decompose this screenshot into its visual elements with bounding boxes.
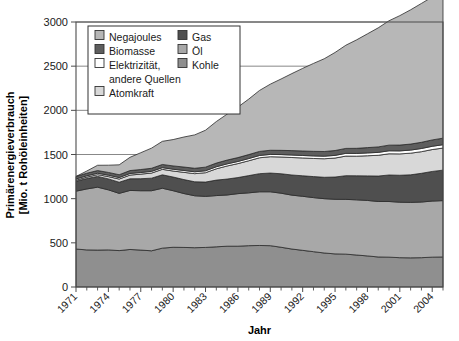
svg-text:1977: 1977: [119, 290, 144, 315]
svg-text:1992: 1992: [281, 290, 306, 315]
svg-text:3000: 3000: [44, 16, 68, 28]
svg-text:Gas: Gas: [192, 31, 211, 43]
svg-text:Atomkraft: Atomkraft: [109, 87, 154, 99]
svg-text:1986: 1986: [216, 290, 241, 315]
legend-swatch-negajoules: [95, 31, 104, 40]
svg-text:2500: 2500: [44, 60, 68, 72]
svg-text:andere Quellen: andere Quellen: [109, 73, 181, 85]
legend: NegajoulesBiomasseElektrizität,andere Qu…: [88, 26, 240, 114]
svg-text:500: 500: [50, 237, 68, 249]
svg-text:2000: 2000: [44, 104, 68, 116]
svg-text:[Mio. t Rohöleinheiten]: [Mio. t Rohöleinheiten]: [17, 95, 29, 214]
energy-consumption-area-chart: 0500100015002000250030001971197419771980…: [0, 0, 459, 341]
svg-text:Primärenergieverbrauch: Primärenergieverbrauch: [4, 91, 16, 218]
svg-text:Biomasse: Biomasse: [109, 45, 155, 57]
svg-text:Negajoules: Negajoules: [109, 31, 162, 43]
x-axis: 1971197419771980198319861989199219951998…: [54, 287, 443, 315]
chart-canvas: 0500100015002000250030001971197419771980…: [0, 0, 459, 341]
legend-swatch-kohle: [178, 59, 187, 68]
svg-text:1974: 1974: [87, 290, 112, 315]
svg-text:Öl: Öl: [192, 45, 203, 57]
legend-swatch-biomasse: [95, 45, 104, 54]
legend-swatch-atomkraft: [95, 87, 104, 96]
svg-text:1000: 1000: [44, 193, 68, 205]
svg-text:1500: 1500: [44, 149, 68, 161]
svg-text:2001: 2001: [378, 290, 403, 315]
svg-text:1983: 1983: [184, 290, 209, 315]
svg-text:1980: 1980: [152, 290, 177, 315]
svg-text:Jahr: Jahr: [248, 324, 272, 336]
legend-swatch-gas: [178, 31, 187, 40]
svg-text:2004: 2004: [411, 290, 436, 315]
svg-text:1998: 1998: [346, 290, 371, 315]
svg-text:1989: 1989: [249, 290, 274, 315]
svg-text:Elektrizität,: Elektrizität,: [109, 59, 160, 71]
svg-text:1971: 1971: [54, 290, 79, 315]
legend-swatch--l: [178, 45, 187, 54]
svg-text:Kohle: Kohle: [192, 59, 219, 71]
y-axis: 050010001500200025003000: [44, 16, 76, 293]
legend-swatch-elektrizit-t: [95, 59, 104, 68]
svg-text:0: 0: [62, 281, 68, 293]
svg-text:1995: 1995: [313, 290, 338, 315]
